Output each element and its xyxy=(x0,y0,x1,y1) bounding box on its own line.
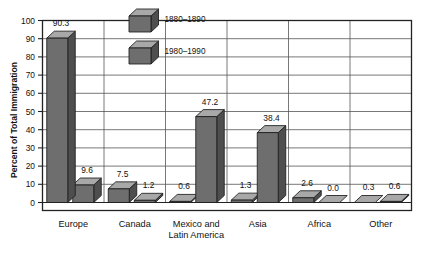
x-axis-category-label: Africa xyxy=(308,219,332,229)
y-tick-label: 80 xyxy=(26,52,36,62)
y-tick-label: 10 xyxy=(26,179,36,189)
value-label: 1.2 xyxy=(143,180,155,190)
y-tick-label: 20 xyxy=(26,161,36,171)
bar-front-face xyxy=(134,200,155,202)
value-label: 90.3 xyxy=(53,18,70,28)
immigration-bar-chart: 0102030405060708090100 90.39.67.51.20.64… xyxy=(0,0,433,254)
bar-side-face xyxy=(278,126,286,203)
y-tick-label: 70 xyxy=(26,70,36,80)
y-tick-label: 90 xyxy=(26,34,36,44)
legend-cube-front xyxy=(129,48,151,64)
y-tick-label: 50 xyxy=(26,107,36,117)
y-tick-label: 60 xyxy=(26,88,36,98)
y-tick-label: 100 xyxy=(21,16,35,26)
bar-front-face xyxy=(47,38,68,202)
value-label: 2.6 xyxy=(301,178,313,188)
bar-front-face xyxy=(380,201,401,202)
legend-cube-front xyxy=(129,16,151,32)
bar-front-face xyxy=(257,133,278,203)
value-label: 47.2 xyxy=(202,97,219,107)
bar-asia-1980-1990 xyxy=(257,126,286,203)
y-tick-label: 30 xyxy=(26,143,36,153)
x-axis-category-label: Mexico and xyxy=(173,219,220,229)
value-label: 0.0 xyxy=(327,183,339,193)
value-label: 9.6 xyxy=(81,165,93,175)
bar-canada-1880-1890 xyxy=(108,182,137,203)
legend-swatch-1880-1890 xyxy=(129,9,159,32)
legend-label: 1880–1890 xyxy=(165,15,206,24)
bar-front-face xyxy=(170,201,191,202)
bar-front-face xyxy=(293,198,314,203)
y-axis-title: Percent of Total Immigration xyxy=(9,62,19,178)
y-tick-label: 40 xyxy=(26,125,36,135)
x-axis-category-label: Other xyxy=(369,219,392,229)
y-tick-label: 0 xyxy=(30,198,35,208)
value-label: 7.5 xyxy=(117,169,129,179)
bar-europe-1980-1990 xyxy=(73,178,102,202)
x-axis-category-label: Europe xyxy=(58,219,88,229)
value-label: 0.3 xyxy=(363,182,375,192)
bar-front-face xyxy=(108,189,129,203)
value-label: 0.6 xyxy=(389,181,401,191)
value-label: 1.3 xyxy=(240,180,252,190)
value-label: 0.6 xyxy=(178,181,190,191)
legend-swatch-1980-1990 xyxy=(129,41,159,64)
x-axis-category-label: Latin America xyxy=(168,230,225,240)
bar-front-face xyxy=(196,117,217,203)
value-label: 38.4 xyxy=(263,113,280,123)
bar-front-face xyxy=(231,200,252,202)
chart-canvas: 0102030405060708090100 90.39.67.51.20.64… xyxy=(0,0,433,254)
bar-mexico-and-latin-america-1980-1990 xyxy=(196,110,225,203)
x-axis-category-label: Canada xyxy=(119,219,152,229)
bar-europe-1880-1890 xyxy=(47,31,76,202)
legend-label: 1980–1990 xyxy=(165,47,206,56)
bar-side-face xyxy=(68,31,76,202)
bar-front-face xyxy=(73,185,94,202)
bar-side-face xyxy=(217,110,225,203)
x-axis-category-label: Asia xyxy=(249,219,268,229)
